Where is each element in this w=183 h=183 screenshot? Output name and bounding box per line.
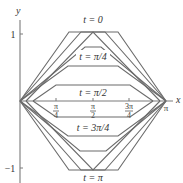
label-t-pi: t = π: [83, 172, 104, 183]
x-tick-3pi-over-4-den: 4: [127, 111, 131, 120]
y-axis-label: y: [15, 5, 21, 16]
wave-snapshots-diagram: y x 1 −1 π 4 π 2 3π 4 π t = 0 t = π/4 t …: [0, 0, 183, 183]
x-axis-label: x: [175, 94, 181, 105]
label-t-3pi-over-4: t = 3π/4: [77, 122, 109, 133]
x-tick-3pi-over-4-num: 3π: [125, 102, 133, 111]
label-t-0: t = 0: [83, 14, 103, 25]
label-t-pi-over-4: t = π/4: [79, 51, 106, 62]
y-tick-label-neg1: −1: [5, 163, 16, 174]
x-tick-pi-over-2-den: 2: [91, 111, 95, 120]
x-tick-pi-over-2-num: π: [91, 102, 95, 111]
x-tick-pi-over-4-num: π: [54, 102, 58, 111]
label-t-pi-over-2: t = π/2: [79, 87, 106, 98]
x-end-label-pi: π: [164, 103, 169, 113]
y-tick-label-1: 1: [11, 29, 16, 40]
